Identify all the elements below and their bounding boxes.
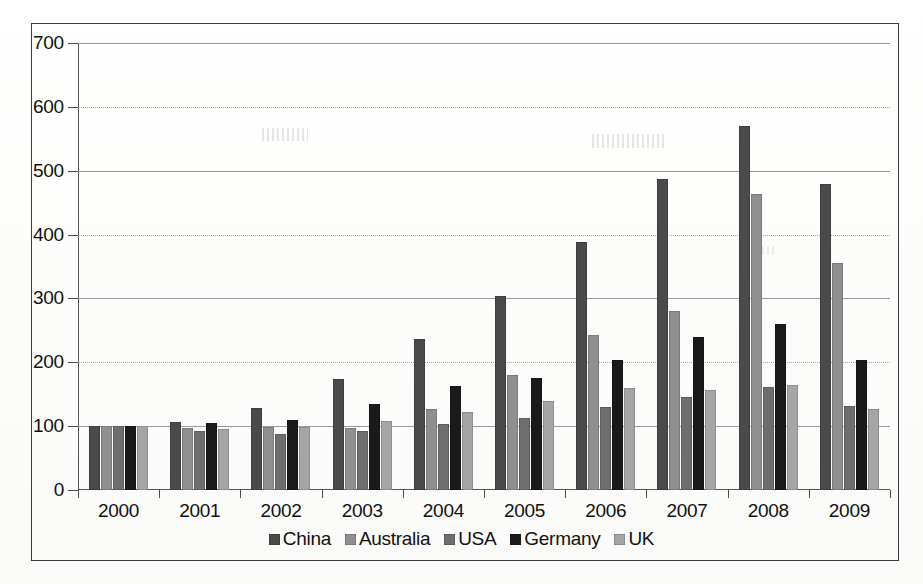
- y-tick-700: [68, 43, 78, 44]
- bar-australia-2007: [669, 311, 680, 490]
- bar-series-container: [78, 43, 890, 490]
- legend-item-uk[interactable]: UK: [614, 528, 654, 550]
- bar-china-2002: [251, 408, 262, 490]
- bar-china-2003: [333, 379, 344, 490]
- y-axis-label-600: 600: [33, 96, 64, 118]
- bar-uk-2005: [543, 401, 554, 490]
- bar-australia-2006: [588, 335, 599, 490]
- legend-item-usa[interactable]: USA: [444, 528, 496, 550]
- bar-group-2007: [646, 43, 727, 490]
- x-tick-5: [484, 490, 485, 498]
- legend-swatch-icon-china: [269, 534, 280, 545]
- x-axis-label-2000: 2000: [98, 500, 139, 522]
- bar-germany-2001: [206, 423, 217, 490]
- bar-germany-2002: [287, 420, 298, 490]
- bar-uk-2000: [137, 426, 148, 490]
- chart-screenshot: 0100200300400500600700 20002001200220032…: [0, 0, 923, 584]
- bar-germany-2008: [775, 324, 786, 490]
- bar-australia-2004: [426, 409, 437, 490]
- x-tick-2: [240, 490, 241, 498]
- y-axis-label-500: 500: [33, 160, 64, 182]
- y-axis-label-700: 700: [33, 32, 64, 54]
- bar-germany-2004: [450, 386, 461, 490]
- bar-usa-2007: [681, 397, 692, 490]
- bar-usa-2003: [357, 431, 368, 490]
- bar-group-2005: [484, 43, 565, 490]
- chart-legend: ChinaAustraliaUSAGermanyUK: [0, 528, 923, 550]
- bar-uk-2001: [218, 429, 229, 490]
- x-axis-label-2001: 2001: [179, 500, 220, 522]
- y-axis-label-300: 300: [33, 287, 64, 309]
- bar-australia-2001: [182, 428, 193, 490]
- x-tick-4: [403, 490, 404, 498]
- bar-china-2005: [495, 296, 506, 490]
- x-axis-label-2005: 2005: [504, 500, 545, 522]
- plot-area: 0100200300400500600700 20002001200220032…: [78, 43, 890, 490]
- bar-usa-2006: [600, 407, 611, 490]
- y-tick-600: [68, 107, 78, 108]
- x-tick-10: [890, 490, 891, 498]
- x-axis-label-2002: 2002: [260, 500, 301, 522]
- x-axis-label-2003: 2003: [342, 500, 383, 522]
- bar-china-2001: [170, 422, 181, 490]
- bar-china-2008: [739, 126, 750, 490]
- legend-label-germany: Germany: [524, 528, 600, 550]
- x-tick-3: [322, 490, 323, 498]
- bar-uk-2006: [624, 388, 635, 490]
- legend-label-uk: UK: [628, 528, 654, 550]
- bar-germany-2005: [531, 378, 542, 490]
- legend-item-germany[interactable]: Germany: [510, 528, 600, 550]
- bar-usa-2004: [438, 424, 449, 490]
- bar-germany-2006: [612, 360, 623, 490]
- bar-group-2000: [78, 43, 159, 490]
- bar-china-2004: [414, 339, 425, 490]
- bar-group-2006: [565, 43, 646, 490]
- legend-item-china[interactable]: China: [269, 528, 331, 550]
- bar-australia-2005: [507, 375, 518, 490]
- bar-australia-2000: [101, 426, 112, 490]
- y-tick-500: [68, 171, 78, 172]
- y-axis-label-0: 0: [54, 479, 64, 501]
- legend-swatch-icon-australia: [345, 534, 356, 545]
- x-tick-0: [78, 490, 79, 498]
- bar-group-2004: [403, 43, 484, 490]
- x-axis-label-2009: 2009: [829, 500, 870, 522]
- bar-group-2001: [159, 43, 240, 490]
- bar-germany-2007: [693, 337, 704, 490]
- bar-usa-2001: [194, 431, 205, 490]
- x-axis-label-2006: 2006: [585, 500, 626, 522]
- bar-uk-2007: [705, 390, 716, 490]
- legend-swatch-icon-germany: [510, 534, 521, 545]
- bar-china-2009: [820, 184, 831, 491]
- y-tick-100: [68, 426, 78, 427]
- bar-usa-2008: [763, 387, 774, 490]
- bar-group-2003: [322, 43, 403, 490]
- bar-usa-2009: [844, 406, 855, 490]
- bar-germany-2009: [856, 360, 867, 490]
- legend-label-china: China: [283, 528, 331, 550]
- bar-group-2009: [809, 43, 890, 490]
- legend-swatch-icon-uk: [614, 534, 625, 545]
- bar-australia-2002: [263, 427, 274, 490]
- y-tick-400: [68, 235, 78, 236]
- y-axis-label-400: 400: [33, 224, 64, 246]
- bar-uk-2008: [787, 385, 798, 490]
- bar-uk-2004: [462, 412, 473, 490]
- bar-australia-2003: [345, 428, 356, 490]
- x-axis-label-2007: 2007: [666, 500, 707, 522]
- x-axis-label-2004: 2004: [423, 500, 464, 522]
- bar-australia-2008: [751, 194, 762, 490]
- bar-australia-2009: [832, 263, 843, 490]
- y-axis-label-200: 200: [33, 351, 64, 373]
- bar-usa-2005: [519, 418, 530, 490]
- legend-label-usa: USA: [458, 528, 496, 550]
- bar-usa-2000: [113, 426, 124, 490]
- y-tick-200: [68, 362, 78, 363]
- bar-china-2007: [657, 179, 668, 490]
- legend-item-australia[interactable]: Australia: [345, 528, 430, 550]
- legend-label-australia: Australia: [359, 528, 430, 550]
- bar-uk-2002: [299, 427, 310, 490]
- x-tick-1: [159, 490, 160, 498]
- bar-group-2008: [728, 43, 809, 490]
- bar-germany-2000: [125, 426, 136, 490]
